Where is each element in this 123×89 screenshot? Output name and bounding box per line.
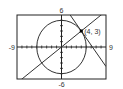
point-label: (4, 3) (84, 28, 100, 36)
y-min-label: -6 (58, 81, 64, 88)
x-max-label: 9 (109, 44, 113, 51)
graph-plot: 6 -6 -9 9 (4, 3) (0, 0, 123, 89)
point-marker (80, 30, 83, 33)
x-min-label: -9 (9, 44, 15, 51)
y-max-label: 6 (60, 7, 64, 14)
